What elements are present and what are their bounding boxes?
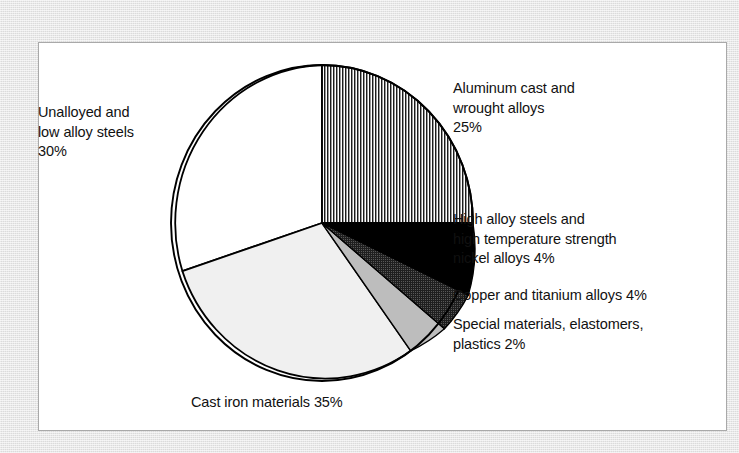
pie-slice-aluminum-cast-and-wrought-alloys[interactable] — [322, 65, 473, 223]
pie-label-aluminum-cast-and-wrought-alloys: Aluminum cast and wrought alloys 25% — [453, 79, 575, 138]
pie-label-copper-and-titanium-alloys: Copper and titanium alloys 4% — [453, 286, 647, 306]
pie-label-special-materials-elastomers-plastics: Special materials, elastomers, plastics … — [453, 315, 643, 354]
pie-label-cast-iron-materials: Cast iron materials 35% — [191, 393, 343, 413]
pie-label-high-alloy-steels-and-nickel-alloys: High alloy steels and high temperature s… — [453, 210, 617, 269]
pie-chart-svg — [39, 43, 728, 432]
figure-page: Aluminum cast and wrought alloys 25% Hig… — [0, 0, 739, 453]
figure-panel: Aluminum cast and wrought alloys 25% Hig… — [38, 42, 727, 431]
pie-chart: Aluminum cast and wrought alloys 25% Hig… — [39, 43, 726, 430]
pie-label-unalloyed-and-low-alloy-steels: Unalloyed and low alloy steels 30% — [38, 103, 134, 162]
